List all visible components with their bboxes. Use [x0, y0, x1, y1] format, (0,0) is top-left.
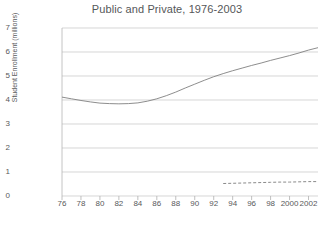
chart-plot [0, 0, 334, 226]
chart-container: Public and Private, 1976-2003 Student En… [0, 0, 334, 226]
gridlines [62, 28, 318, 196]
series-line-private [223, 182, 318, 184]
data-series-layer [62, 48, 318, 184]
x-tick-marks [62, 196, 309, 200]
